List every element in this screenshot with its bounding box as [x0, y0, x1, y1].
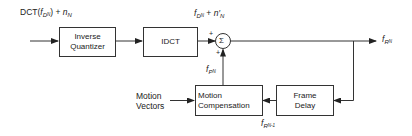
- input-label-n-sub: N: [68, 12, 72, 18]
- iq-line-2: Quantizer: [70, 42, 105, 52]
- delayed-frame-label: fRN-1: [261, 118, 275, 131]
- idct-out-n-sub: N: [220, 13, 224, 19]
- idct-out-plus: +: [204, 8, 214, 18]
- mc-line-1: Motion: [198, 91, 222, 101]
- input-label: DCT(fDN) + nN: [20, 7, 72, 20]
- motion-vectors-line-1: Motion: [136, 91, 164, 101]
- fd-line-1: Frame: [293, 91, 316, 101]
- idct-output-label: fDN + n′N: [194, 8, 224, 21]
- iq-line-1: Inverse: [74, 32, 100, 42]
- fd-line-2: Delay: [295, 101, 315, 111]
- output-label: fRN: [382, 34, 392, 47]
- motion-vectors-line-2: Vectors: [136, 101, 164, 111]
- input-label-prefix: DCT(: [20, 7, 40, 17]
- motion-compensation-label: Motion Compensation: [195, 85, 263, 116]
- summer-sign-bottom: +: [216, 49, 220, 56]
- prediction-subsub: N: [212, 69, 215, 74]
- output-subsub: N: [389, 39, 392, 44]
- idct-line-1: IDCT: [161, 37, 180, 47]
- mc-line-2: Compensation: [198, 101, 250, 111]
- summer-symbol: Σ: [219, 36, 224, 46]
- delayed-subsub: N-1: [268, 123, 275, 128]
- prediction-label: fPN: [206, 64, 216, 77]
- inverse-quantizer-label: Inverse Quantizer: [59, 27, 116, 57]
- frame-delay-label: Frame Delay: [276, 85, 334, 116]
- feedback-arrow: [334, 41, 354, 101]
- input-label-suffix: ) +: [50, 7, 63, 17]
- summer-sign-top: +: [209, 30, 213, 37]
- idct-label: IDCT: [143, 27, 198, 57]
- motion-vectors-label: Motion Vectors: [136, 91, 164, 111]
